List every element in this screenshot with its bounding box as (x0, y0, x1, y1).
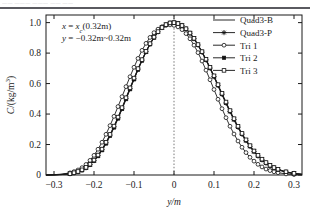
x-tick-label: 0.1 (208, 180, 220, 190)
marker-open-circle (252, 159, 256, 163)
marker-open-square (184, 27, 188, 31)
marker-open-circle (120, 95, 124, 99)
marker-open-square (124, 96, 128, 100)
marker-open-circle (244, 151, 248, 155)
y-tick-label: 0.8 (29, 48, 41, 58)
x-tick-label: −0.2 (85, 180, 102, 190)
y-axis-title: C/(kg/m3) (4, 76, 17, 114)
legend-label: Tri 2 (240, 53, 257, 63)
marker-open-circle (180, 28, 184, 32)
marker-open-square (268, 163, 272, 167)
marker-open-square (192, 37, 196, 41)
legend-entry-quad3-b[interactable]: Quad3-B (213, 15, 273, 25)
y-axis-title-group: C/(kg/m3) (4, 76, 17, 114)
marker-open-square (204, 57, 208, 61)
marker-open-square (232, 117, 236, 121)
marker-open-square (164, 23, 168, 27)
marker-open-circle (232, 132, 236, 136)
marker-open-square (264, 161, 268, 165)
legend-label: Tri 1 (240, 41, 257, 51)
marker-open-circle (212, 88, 216, 92)
marker-open-circle (236, 139, 240, 143)
marker-open-square (240, 132, 244, 136)
marker-open-circle (104, 132, 108, 136)
marker-open-circle (208, 78, 212, 82)
series-line (46, 25, 302, 175)
marker-open-square (236, 124, 240, 128)
legend-entry-tri-1[interactable]: Tri 1 (213, 41, 257, 51)
marker-open-circle (272, 170, 276, 174)
marker-open-square (152, 35, 156, 39)
marker-open-square (136, 67, 140, 71)
marker-open-square (188, 31, 192, 35)
marker-open-circle (268, 169, 272, 173)
legend-entry-tri-2[interactable]: Tri 2 (213, 53, 257, 63)
marker-open-square (248, 144, 252, 148)
marker-open-circle (216, 97, 220, 101)
marker-open-square (80, 168, 84, 172)
marker-open-square (108, 133, 112, 137)
marker-open-circle (248, 155, 252, 159)
marker-open-circle (184, 32, 188, 36)
legend-layer: Quad3-BQuad3-PTri 1Tri 2Tri 3 (213, 15, 273, 75)
marker-open-square (276, 167, 280, 171)
marker-open-square (172, 21, 176, 25)
marker-open-circle (192, 43, 196, 47)
y-tick-label: 0.2 (29, 140, 41, 150)
marker-open-circle (222, 43, 226, 47)
marker-open-circle (112, 114, 116, 118)
marker-open-square (180, 24, 184, 28)
figure-container: —— ——— ——— —— —— −0.3−0.2−0.100.10.20.30… (0, 0, 310, 214)
marker-open-circle (88, 158, 92, 162)
marker-open-circle (140, 48, 144, 52)
marker-open-square (196, 43, 200, 47)
marker-open-circle (200, 59, 204, 63)
marker-open-circle (264, 167, 268, 171)
marker-open-square (148, 42, 152, 46)
marker-open-circle (196, 51, 200, 55)
annotation-condition-y: y = −0.32m~0.32m (61, 33, 131, 43)
marker-open-square (228, 109, 232, 113)
marker-open-square (244, 138, 248, 142)
y-tick-label: 0.4 (29, 109, 41, 119)
marker-open-square (200, 50, 204, 54)
marker-open-square (88, 162, 92, 166)
marker-open-circle (256, 162, 260, 166)
marker-open-circle (108, 124, 112, 128)
legend-entry-tri-3[interactable]: Tri 3 (213, 66, 258, 76)
marker-open-square (160, 26, 164, 30)
marker-open-circle (240, 145, 244, 149)
marker-open-square (256, 154, 260, 158)
x-axis-title: y/m (166, 197, 181, 207)
marker-open-square (144, 49, 148, 53)
marker-open-square (76, 170, 80, 174)
x-tick-label: 0.3 (288, 180, 300, 190)
marker-open-circle (144, 41, 148, 45)
annotation-layer: x = xc(0.32m)y = −0.32m~0.32m (61, 21, 131, 43)
marker-open-circle (148, 36, 152, 40)
x-tick-label: 0 (172, 180, 177, 190)
marker-filled-square (222, 56, 225, 59)
marker-open-circle (116, 105, 120, 109)
marker-open-circle (204, 68, 208, 72)
marker-open-square (212, 74, 216, 78)
marker-open-square (252, 149, 256, 153)
marker-open-square (84, 166, 88, 170)
legend-entry-quad3-p[interactable]: Quad3-P (213, 28, 272, 38)
marker-open-square (92, 158, 96, 162)
marker-open-square (112, 124, 116, 128)
marker-open-circle (220, 107, 224, 111)
y-tick-label: 1.0 (29, 18, 41, 28)
marker-open-square (120, 106, 124, 110)
y-tick-label: 0.6 (29, 79, 41, 89)
marker-open-circle (152, 31, 156, 35)
marker-open-square (292, 172, 296, 176)
marker-open-square (132, 76, 136, 80)
legend-label: Quad3-B (240, 15, 273, 25)
marker-open-square (222, 69, 226, 73)
marker-open-circle (132, 65, 136, 69)
marker-open-circle (228, 124, 232, 128)
chart-svg: −0.3−0.2−0.100.10.20.300.20.40.60.81.0y/… (0, 0, 310, 214)
marker-open-square (96, 153, 100, 157)
marker-open-square (100, 147, 104, 151)
